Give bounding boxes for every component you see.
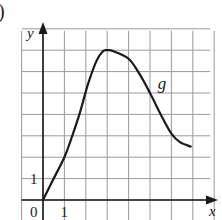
axes [22,22,218,220]
graph: x y g 0 1 1 [0,0,222,220]
curve-label: g [158,74,167,93]
x-tick-label-1: 1 [60,204,68,220]
y-axis-label: y [25,25,34,41]
y-axis-arrow-icon [39,22,48,34]
curve-g [43,50,191,200]
y-tick-label-1: 1 [30,171,38,187]
grid [22,29,215,220]
x-axis-label: x [208,203,216,219]
origin-label: 0 [30,204,38,220]
